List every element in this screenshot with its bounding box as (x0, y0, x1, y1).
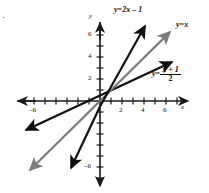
x-tick-label-4: 4 (141, 107, 145, 114)
series-line-half-x-plus-1 (26, 62, 172, 130)
x-axis-label: x (181, 104, 184, 111)
x-tick-label-6: 6 (163, 107, 167, 114)
equation-label-x-plus-1-over-2: y=x + 12 (152, 66, 181, 83)
eq1-rhs: 2x – 1 (122, 5, 142, 14)
fraction: x + 12 (160, 66, 181, 83)
fraction-denominator: 2 (160, 75, 181, 83)
series-line-2x-minus-1 (71, 26, 145, 168)
y-tick-label-4: 4 (88, 53, 92, 60)
y-axis-label: y (89, 13, 92, 20)
y-tick-label-2: 2 (88, 75, 92, 82)
x-tick-label-2: 2 (119, 107, 123, 114)
figure-container: · (0, 0, 209, 193)
eq2-rhs: x (184, 20, 188, 29)
y-tick-label-6: 6 (88, 31, 92, 38)
y-tick-label-neg6: –6 (84, 163, 91, 170)
equation-label-2x-minus-1: y=2x – 1 (114, 6, 142, 14)
x-tick-label-neg6: –6 (29, 107, 36, 114)
equation-label-y-equals-x: y=x (176, 21, 188, 29)
